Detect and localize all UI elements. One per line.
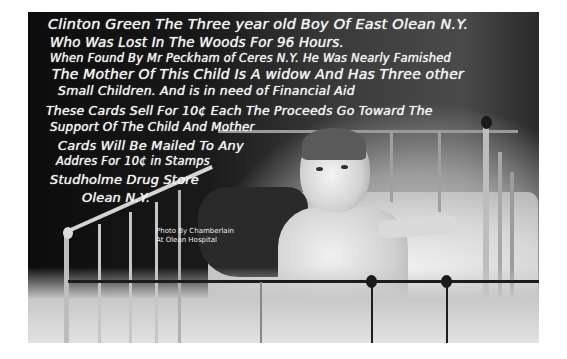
- photo-credit: Photo By Chamberlain At Olean Hospital: [156, 227, 234, 245]
- caption-line: Support Of The Child And Mother: [50, 120, 255, 134]
- caption-line: When Found By Mr Peckham of Ceres N.Y. H…: [50, 51, 451, 65]
- credit-line: At Olean Hospital: [156, 236, 234, 245]
- caption-line: The Mother Of This Child Is A widow And …: [52, 66, 464, 82]
- caption-line: Olean N.Y.: [82, 190, 150, 205]
- caption-line: Addres For 10¢ in Stamps: [56, 154, 210, 168]
- caption-line: Who Was Lost In The Woods For 96 Hours.: [50, 34, 344, 50]
- caption-line: Studholme Drug Store: [50, 172, 199, 187]
- caption-line: These Cards Sell For 10¢ Each The Procee…: [46, 103, 433, 118]
- handwritten-caption: Clinton Green The Three year old Boy Of …: [28, 12, 539, 343]
- caption-line: Clinton Green The Three year old Boy Of …: [48, 16, 468, 32]
- caption-line: Small Children. And is in need of Financ…: [58, 83, 355, 98]
- credit-line: Photo By Chamberlain: [156, 227, 234, 236]
- caption-line: Cards Will Be Mailed To Any: [58, 138, 244, 153]
- postcard-photo: Clinton Green The Three year old Boy Of …: [28, 12, 539, 343]
